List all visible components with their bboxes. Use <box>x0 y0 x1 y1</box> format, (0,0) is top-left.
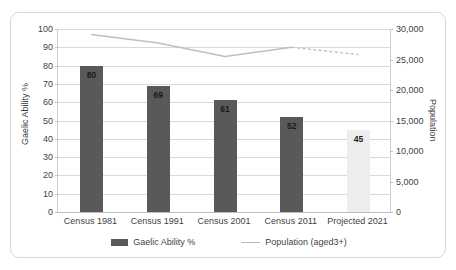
right-axis-tick-label: 30,000 <box>396 29 424 38</box>
right-axis-tick-mark <box>390 182 393 183</box>
right-axis-tick-label: 25,000 <box>396 60 424 69</box>
bar-value-label: 80 <box>80 70 103 80</box>
left-axis-tick-label: 90 <box>43 47 53 56</box>
right-axis-tick-label: 0 <box>396 212 401 221</box>
left-axis-tick-mark <box>55 47 58 48</box>
gridline <box>58 84 390 85</box>
population-line-projected-dashed <box>292 47 359 54</box>
left-axis-tick-label: 70 <box>43 84 53 93</box>
right-axis-tick-mark <box>390 121 393 122</box>
plot-area: 0102030405060708090100 05,00010,00015,00… <box>57 29 391 212</box>
gridline <box>58 29 390 30</box>
gridline <box>58 47 390 48</box>
right-axis-tick-label: 10,000 <box>396 151 424 160</box>
left-axis-tick-mark <box>55 175 58 176</box>
right-axis-tick-label: 20,000 <box>396 90 424 99</box>
bar-0[interactable]: 80 <box>80 66 103 212</box>
left-axis-tick-label: 60 <box>43 102 53 111</box>
bar-value-label: 52 <box>280 121 303 131</box>
right-axis-tick-label: 15,000 <box>396 121 424 130</box>
right-axis-tick-mark <box>390 60 393 61</box>
left-axis-tick-mark <box>55 212 58 213</box>
left-axis-tick-mark <box>55 102 58 103</box>
x-axis-label-0: Census 1981 <box>64 216 117 226</box>
bar-4[interactable]: 45 <box>347 130 370 212</box>
right-axis-tick-mark <box>390 151 393 152</box>
legend-label-population: Population (aged3+) <box>265 237 346 247</box>
population-line-solid <box>91 35 291 57</box>
bar-swatch-icon <box>111 239 128 246</box>
x-axis-label-4: Projected 2021 <box>327 216 388 226</box>
left-axis-tick-mark <box>55 121 58 122</box>
left-axis-tick-label: 50 <box>43 121 53 130</box>
right-axis-tick-mark <box>390 90 393 91</box>
left-axis-tick-mark <box>55 84 58 85</box>
left-axis-tick-label: 40 <box>43 139 53 148</box>
bar-value-label: 61 <box>214 104 237 114</box>
left-axis-tick-mark <box>55 194 58 195</box>
bar-3[interactable]: 52 <box>280 117 303 212</box>
left-axis-tick-label: 20 <box>43 175 53 184</box>
gridline <box>58 66 390 67</box>
gridline <box>58 212 390 213</box>
left-axis-tick-mark <box>55 29 58 30</box>
x-axis-label-3: Census 2011 <box>265 216 317 226</box>
bar-value-label: 45 <box>347 134 370 144</box>
chart-container: Gaelic Ability % Population 010203040506… <box>10 12 446 258</box>
bar-2[interactable]: 61 <box>214 100 237 212</box>
right-axis-title: Population <box>428 99 438 142</box>
left-axis-tick-mark <box>55 139 58 140</box>
left-axis-tick-label: 0 <box>48 212 53 221</box>
legend-item-gaelic-ability[interactable]: Gaelic Ability % <box>111 237 195 247</box>
right-axis-tick-mark <box>390 29 393 30</box>
left-axis-tick-label: 100 <box>38 29 53 38</box>
left-axis-tick-label: 30 <box>43 157 53 166</box>
chart-legend: Gaelic Ability % Population (aged3+) <box>11 235 447 249</box>
legend-item-population[interactable]: Population (aged3+) <box>241 237 346 247</box>
x-axis-label-2: Census 2001 <box>197 216 250 226</box>
left-axis-tick-mark <box>55 66 58 67</box>
left-axis-tick-label: 80 <box>43 66 53 75</box>
legend-label-gaelic-ability: Gaelic Ability % <box>133 237 195 247</box>
x-axis-category-labels: Census 1981Census 1991Census 2001Census … <box>57 216 391 232</box>
x-axis-label-1: Census 1991 <box>131 216 184 226</box>
left-axis-tick-label: 10 <box>43 194 53 203</box>
left-axis-tick-mark <box>55 157 58 158</box>
bar-value-label: 69 <box>147 90 170 100</box>
right-axis-tick-mark <box>390 212 393 213</box>
left-axis-title: Gaelic Ability % <box>20 83 30 145</box>
right-axis-tick-label: 5,000 <box>396 182 419 191</box>
bar-1[interactable]: 69 <box>147 86 170 212</box>
line-swatch-icon <box>241 242 260 243</box>
